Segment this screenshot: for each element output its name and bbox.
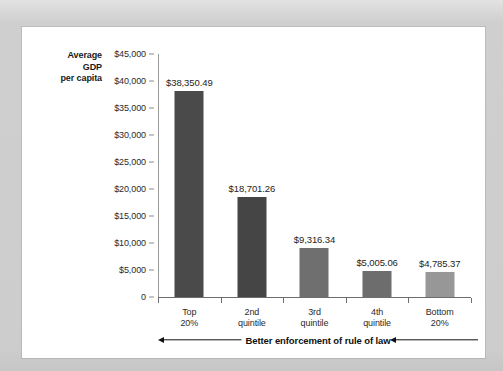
y-axis-tick-mark — [149, 162, 154, 163]
x-axis-category-label-line: 3rd — [283, 307, 346, 318]
x-axis-category-label-line: quintile — [346, 318, 409, 329]
y-axis-tick-label: $30,000 — [114, 130, 146, 140]
bar-group: $5,005.06 — [346, 28, 409, 298]
y-axis-tick-label: $10,000 — [114, 238, 146, 248]
plot-area: $38,350.49$18,701.26$9,316.34$5,005.06$4… — [158, 27, 471, 298]
y-axis-title-line-3: per capita — [24, 73, 102, 85]
bar-group: $4,785.37 — [408, 28, 471, 298]
bar-group: $18,701.26 — [221, 28, 284, 298]
bar[interactable] — [363, 271, 392, 298]
y-axis-tick-mark — [149, 108, 154, 109]
y-axis-title-line-1: Average — [24, 50, 102, 62]
x-axis-category-label-line: 4th — [346, 307, 409, 318]
bar-value-label: $4,785.37 — [419, 258, 460, 269]
x-axis-tick-mark — [346, 298, 347, 303]
chart-panel: Average GDP per capita $45,000$40,000$35… — [22, 27, 485, 358]
bar-group: $38,350.49 — [158, 28, 221, 298]
y-axis-tick-mark — [149, 297, 154, 298]
bar[interactable] — [300, 248, 329, 298]
left-arrow-line — [163, 339, 249, 340]
y-axis-tick-mark — [149, 216, 154, 217]
x-axis-line — [158, 297, 471, 298]
y-axis-tick-label: $45,000 — [114, 49, 146, 59]
bar[interactable] — [425, 272, 454, 298]
x-axis-category-label: 2ndquintile — [221, 307, 284, 329]
bar-value-label: $5,005.06 — [356, 257, 397, 268]
x-axis-caption-row: Better enforcement of rule of law — [158, 332, 478, 348]
x-axis-category-label: 4thquintile — [346, 307, 409, 329]
x-axis-tick-mark — [158, 298, 159, 303]
right-arrow-line — [395, 339, 478, 340]
bar[interactable] — [175, 91, 204, 298]
y-axis-tick-mark — [149, 135, 154, 136]
bar-value-label: $18,701.26 — [229, 183, 276, 194]
x-axis-category-label: Bottom20% — [408, 307, 471, 329]
y-axis-tick-mark — [149, 81, 154, 82]
x-axis-category-label-line: quintile — [283, 318, 346, 329]
bar-value-label: $9,316.34 — [294, 234, 335, 245]
y-axis-tick-label: $20,000 — [114, 184, 146, 194]
y-axis-title: Average GDP per capita — [24, 50, 102, 85]
y-axis-tick-label: $15,000 — [114, 211, 146, 221]
y-axis-tick-label: $25,000 — [114, 157, 146, 167]
bar-value-label: $38,350.49 — [166, 77, 213, 88]
x-axis-category-label: 3rdquintile — [283, 307, 346, 329]
x-axis-tick-mark — [221, 298, 222, 303]
x-axis-tick-mark — [283, 298, 284, 303]
bar-group: $9,316.34 — [283, 28, 346, 298]
y-axis-tick-label: $35,000 — [114, 103, 146, 113]
x-axis-category-label-line: Top — [158, 307, 221, 318]
y-axis-tick-mark — [149, 189, 154, 190]
bar[interactable] — [237, 197, 266, 298]
x-axis-caption: Better enforcement of rule of law — [241, 335, 394, 346]
x-axis-category-label-line: 2nd — [221, 307, 284, 318]
y-axis-tick-label: 0 — [141, 292, 146, 302]
x-axis-tick-mark — [408, 298, 409, 303]
x-axis-category-label-line: Bottom — [408, 307, 471, 318]
y-axis-tick-label: $5,000 — [119, 265, 146, 275]
y-axis-tick-label: $40,000 — [114, 76, 146, 86]
y-axis-tick-mark — [149, 54, 154, 55]
y-axis-tick-mark — [149, 243, 154, 244]
x-axis-category-label: Top20% — [158, 307, 221, 329]
x-axis-tick-mark — [471, 298, 472, 303]
x-axis-category-label-line: 20% — [158, 318, 221, 329]
x-axis-category-label-line: 20% — [408, 318, 471, 329]
y-axis-title-line-2: GDP — [24, 62, 102, 74]
y-axis-tick-mark — [149, 270, 154, 271]
figure-frame: Average GDP per capita $45,000$40,000$35… — [0, 0, 503, 371]
x-axis-category-label-line: quintile — [221, 318, 284, 329]
y-axis-tick-labels: $45,000$40,000$35,000$30,000$25,000$20,0… — [102, 27, 158, 358]
